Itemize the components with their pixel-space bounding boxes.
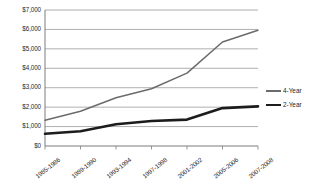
x-axis-tick-label: 2005-2006 — [211, 156, 238, 180]
legend-line-icon-4-year — [266, 90, 281, 91]
data-series-group — [45, 30, 258, 134]
x-axis-tick-labels: 1985-19861989-19901993-19941997-19982001… — [45, 146, 260, 195]
legend-item-4-year[interactable]: 4-Year — [266, 84, 314, 98]
plot-area — [45, 10, 258, 146]
legend-item-2-year[interactable]: 2-Year — [266, 98, 314, 112]
y-axis-tick-labels: $7,000 $6,000 $5,000 $4,000 $3,000 $2,00… — [0, 0, 44, 195]
y-axis-tick-label: $7,000 — [22, 6, 41, 13]
axis-lines — [45, 10, 258, 146]
y-axis-tick-label: $2,000 — [22, 103, 41, 110]
x-axis-tick-label: 1997-1998 — [140, 156, 167, 180]
y-axis-tick-label: $5,000 — [22, 45, 41, 52]
y-axis-tick-label: $3,000 — [22, 83, 41, 90]
plot-canvas — [45, 10, 258, 146]
chart-legend: 4-Year 2-Year — [266, 84, 314, 112]
legend-label: 2-Year — [283, 101, 302, 109]
y-axis-tick-label: $4,000 — [22, 64, 41, 71]
x-axis-tick-label: 1993-1994 — [105, 156, 132, 180]
data-series-2-year — [45, 106, 258, 133]
x-axis-tick-label: 1989-1990 — [69, 156, 96, 180]
legend-line-icon-2-year — [266, 104, 281, 107]
x-axis-tick-label: 2007-2008 — [247, 156, 274, 180]
x-axis-tick-label: 2001-2002 — [176, 156, 203, 180]
legend-label: 4-Year — [283, 87, 302, 95]
line-chart: $7,000 $6,000 $5,000 $4,000 $3,000 $2,00… — [0, 0, 314, 195]
y-axis-tick-label: $6,000 — [22, 25, 41, 32]
y-axis-tick-label: $1,000 — [22, 122, 41, 129]
y-axis-tick-label: $0 — [34, 142, 41, 149]
